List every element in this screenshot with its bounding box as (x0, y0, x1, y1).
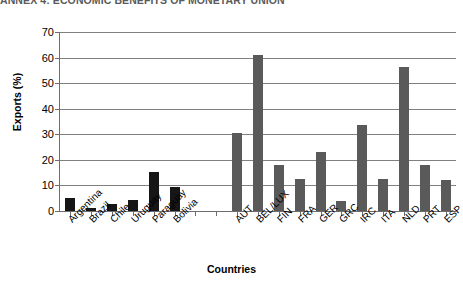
y-tick-mark (55, 211, 60, 212)
y-tick-label: 60 (42, 52, 54, 64)
bar (441, 180, 451, 211)
y-tick-mark (55, 83, 60, 84)
x-tick-mark (195, 211, 196, 216)
y-tick-label: 10 (42, 179, 54, 191)
bar (316, 152, 326, 211)
bar (295, 179, 305, 211)
y-tick-label: 70 (42, 26, 54, 38)
gridline (60, 32, 456, 33)
y-tick-label: 30 (42, 128, 54, 140)
y-tick-mark (55, 134, 60, 135)
bar (378, 179, 388, 211)
bar (253, 55, 263, 211)
x-axis-title: Countries (0, 263, 463, 275)
y-tick-mark (55, 160, 60, 161)
y-tick-mark (55, 58, 60, 59)
bar (357, 125, 367, 211)
y-tick-mark (55, 185, 60, 186)
bar-chart-figure: ANNEX 4: ECONOMIC BENEFITS OF MONETARY U… (0, 0, 463, 285)
y-tick-mark (55, 109, 60, 110)
y-tick-label: 50 (42, 77, 54, 89)
chart-title: ANNEX 4: ECONOMIC BENEFITS OF MONETARY U… (0, 0, 463, 8)
y-tick-label: 0 (48, 205, 54, 217)
bar (420, 165, 430, 211)
plot-area: 010203040506070 ArgentinaBrazilChileUrug… (59, 32, 456, 212)
bar (399, 67, 409, 211)
y-tick-mark (55, 32, 60, 33)
bar (232, 133, 242, 211)
x-tick-mark (216, 211, 217, 216)
y-axis-title: Exports (%) (11, 57, 23, 147)
y-tick-label: 40 (42, 103, 54, 115)
y-tick-label: 20 (42, 154, 54, 166)
